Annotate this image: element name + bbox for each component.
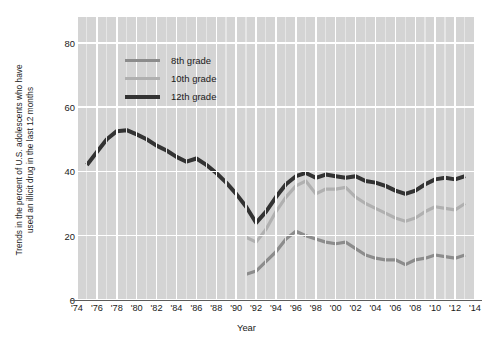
x-tick-label: '78 (111, 303, 123, 313)
gridline-vertical (454, 17, 456, 300)
gridline-vertical (77, 17, 78, 300)
gridline-vertical (375, 17, 377, 300)
legend-label-8th-grade: 8th grade (171, 52, 211, 70)
x-tick-label: '02 (350, 303, 362, 313)
gridline-vertical (434, 17, 436, 300)
gridline-vertical-minor (385, 17, 386, 300)
gridline-vertical-minor (106, 17, 107, 300)
legend-item-10th-grade: 10th grade (125, 70, 275, 88)
legend-swatch-10th-grade (125, 77, 160, 80)
y-tick-label: 20 (53, 230, 75, 241)
gridline-vertical (295, 17, 297, 300)
gridline-vertical-minor (285, 17, 286, 300)
legend-label-12th-grade: 12th grade (171, 88, 216, 106)
x-tick-label: '12 (449, 303, 461, 313)
gridline-horizontal (77, 235, 475, 237)
x-tick-label: '98 (310, 303, 322, 313)
gridline-vertical-minor (405, 17, 406, 300)
gridline-horizontal (77, 106, 475, 108)
x-tick-label: '88 (210, 303, 222, 313)
gridline-horizontal (77, 42, 475, 44)
x-tick-label: '82 (151, 303, 163, 313)
gridline-vertical (415, 17, 417, 300)
x-tick-label: '90 (230, 303, 242, 313)
gridline-vertical (474, 17, 475, 300)
x-tick-label: '04 (370, 303, 382, 313)
gridline-vertical-minor (325, 17, 326, 300)
x-tick-label: '84 (171, 303, 183, 313)
chart-legend: 8th grade 10th grade 12th grade (125, 52, 275, 106)
x-tick-label: '92 (250, 303, 262, 313)
y-tick-label: 80 (53, 37, 75, 48)
gridline-vertical (116, 17, 118, 300)
gridline-vertical-minor (464, 17, 465, 300)
gridline-vertical (395, 17, 397, 300)
x-tick-label: '08 (409, 303, 421, 313)
x-tick-label: '96 (290, 303, 302, 313)
x-axis-line (70, 300, 482, 301)
gridline-vertical-minor (305, 17, 306, 300)
gridline-vertical-minor (345, 17, 346, 300)
gridline-vertical-minor (365, 17, 366, 300)
gridline-vertical-minor (424, 17, 425, 300)
gridline-horizontal (77, 171, 475, 173)
x-tick-label: '80 (131, 303, 143, 313)
chart-figure: Trends in the percent of U.S. adolescent… (0, 0, 493, 353)
legend-label-10th-grade: 10th grade (171, 70, 216, 88)
x-tick-label: '76 (91, 303, 103, 313)
legend-swatch-12th-grade (125, 95, 160, 99)
x-tick-label: '06 (389, 303, 401, 313)
gridline-vertical (96, 17, 98, 300)
gridline-vertical-minor (86, 17, 87, 300)
legend-swatch-8th-grade (125, 59, 160, 62)
gridline-vertical (315, 17, 317, 300)
y-axis-title: Trends in the percent of U.S. adolescent… (14, 10, 37, 310)
gridline-vertical (275, 17, 277, 300)
x-tick-label: '74 (71, 303, 83, 313)
x-axis-title: Year (0, 322, 493, 333)
x-tick-label: '10 (429, 303, 441, 313)
x-axis-tick-labels: '74'76'78'80'82'84'86'88'90'92'94'96'98'… (77, 303, 475, 319)
y-axis-title-container: Trends in the percent of U.S. adolescent… (0, 0, 46, 320)
gridline-vertical (355, 17, 357, 300)
y-tick-label: 60 (53, 102, 75, 113)
legend-item-8th-grade: 8th grade (125, 52, 275, 70)
y-tick-label: 40 (53, 166, 75, 177)
gridline-vertical-minor (444, 17, 445, 300)
gridline-vertical (335, 17, 337, 300)
x-tick-label: '86 (190, 303, 202, 313)
legend-item-12th-grade: 12th grade (125, 88, 275, 106)
x-tick-label: '14 (469, 303, 481, 313)
x-tick-label: '94 (270, 303, 282, 313)
x-tick-label: '00 (330, 303, 342, 313)
